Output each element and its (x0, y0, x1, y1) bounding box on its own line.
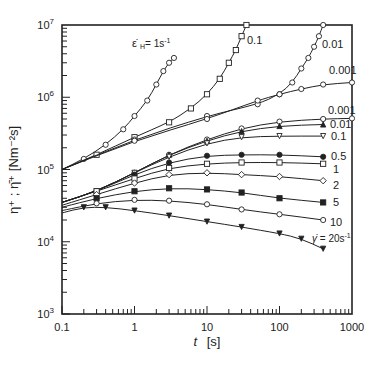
data-point-marker (276, 173, 282, 179)
series-line (62, 155, 323, 203)
series-shear (62, 160, 326, 203)
label-shear-0.001: 0.001 (328, 104, 356, 116)
y-tick-label: 104 (37, 234, 54, 248)
data-point-marker (277, 196, 282, 201)
data-point-marker (132, 138, 137, 143)
label-extensional-0.001: 0.001 (329, 64, 357, 76)
label-shear-2: 2 (333, 179, 339, 191)
x-tick-label: 1000 (340, 321, 364, 333)
data-point-marker (239, 190, 244, 195)
data-point-marker (321, 200, 326, 205)
data-point-marker (166, 160, 171, 165)
y-tick-label: 107 (37, 17, 54, 31)
rheology-chart: 0.11101001000103104105106107 ε̇H= 1s-10.… (0, 0, 381, 370)
x-tick-label: 0.1 (54, 321, 69, 333)
data-point-marker (204, 161, 209, 166)
data-point-marker (233, 47, 238, 52)
label-shear-20: γ̇ = 20s-1 (312, 232, 351, 244)
label-eps-symbol: ε̇ (132, 37, 138, 49)
series-line (62, 189, 323, 208)
label-shear-0.5: 0.5 (331, 150, 346, 162)
data-point-marker (145, 98, 150, 103)
series-line (62, 163, 323, 203)
data-point-marker (306, 55, 311, 60)
data-point-marker (132, 189, 137, 194)
data-point-marker (81, 205, 86, 210)
data-point-marker (321, 82, 326, 87)
data-point-marker (239, 207, 244, 212)
series-line (62, 58, 174, 170)
data-point-marker (204, 170, 210, 176)
label-extensional-1: H= 1s-1 (140, 37, 171, 50)
x-axis-label-unit: [s] (207, 334, 221, 349)
data-point-marker (204, 116, 209, 121)
data-point-marker (238, 171, 244, 177)
data-point-marker (94, 201, 99, 206)
series-extensional (62, 55, 177, 169)
data-point-marker (166, 186, 171, 191)
axes: 0.11101001000103104105106107 (37, 17, 364, 333)
data-point-marker (321, 116, 326, 121)
data-point-marker (171, 55, 176, 60)
data-point-marker (321, 154, 326, 159)
plot-curves (62, 22, 355, 251)
y-tick-label: 105 (37, 162, 54, 176)
series-shear (62, 170, 326, 206)
y-axis-label: η⁺ ; η̄⁺ [Nm⁻²s] (6, 126, 21, 214)
data-point-marker (217, 76, 222, 81)
series-shear (62, 133, 326, 202)
y-tick-label: 106 (37, 89, 54, 103)
data-point-marker (290, 80, 295, 85)
data-point-marker (244, 22, 249, 27)
data-point-marker (349, 80, 354, 85)
label-extensional-0.1: 0.1 (247, 34, 262, 46)
label-shear-0.1: 0.1 (331, 130, 346, 142)
label-shear-5: 5 (333, 196, 339, 208)
data-point-marker (311, 44, 316, 49)
data-point-marker (132, 197, 137, 202)
data-point-marker (255, 98, 260, 103)
data-point-marker (320, 177, 326, 183)
series-line (62, 200, 323, 220)
data-point-marker (204, 153, 209, 158)
data-point-marker (321, 217, 326, 222)
x-tick-label: 10 (201, 321, 213, 333)
data-point-marker (299, 86, 304, 91)
series-shear (62, 122, 326, 203)
data-point-marker (277, 160, 282, 165)
label-shear-1: 1 (333, 163, 339, 175)
data-point-marker (188, 106, 193, 111)
chart-svg: 0.11101001000103104105106107 ε̇H= 1s-10.… (0, 0, 381, 370)
data-point-marker (166, 171, 172, 177)
data-point-marker (161, 69, 166, 74)
series-shear (62, 197, 326, 222)
data-point-marker (277, 92, 282, 97)
data-point-marker (166, 60, 171, 65)
data-point-marker (94, 196, 99, 201)
series-line (62, 207, 323, 249)
data-point-marker (204, 202, 209, 207)
x-tick-label: 100 (270, 321, 288, 333)
data-point-marker (299, 66, 304, 71)
x-axis-label: t [s] (194, 334, 221, 349)
data-point-marker (166, 120, 171, 125)
data-point-marker (121, 127, 126, 132)
label-extensional-0.01: 0.01 (322, 38, 343, 50)
data-point-marker (166, 165, 171, 170)
data-point-marker (277, 152, 282, 157)
data-point-marker (239, 34, 244, 39)
data-point-marker (321, 246, 326, 251)
series-shear (62, 205, 326, 252)
x-axis-label-symbol: t (194, 334, 199, 349)
label-shear-10: 10 (330, 216, 342, 228)
data-point-marker (166, 198, 171, 203)
data-point-marker (204, 92, 209, 97)
x-tick-label: 1 (131, 321, 137, 333)
data-point-marker (321, 22, 326, 27)
data-point-marker (239, 160, 244, 165)
data-point-marker (154, 82, 159, 87)
y-tick-label: 103 (37, 306, 54, 320)
data-point-marker (277, 212, 282, 217)
data-point-marker (316, 34, 321, 39)
data-point-marker (321, 161, 326, 166)
